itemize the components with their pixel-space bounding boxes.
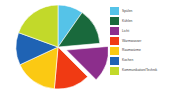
legend-swatch-icon-kuehlen xyxy=(110,17,119,25)
legend-label-spuelen: Spülen xyxy=(122,10,132,13)
legend-label-warmwasser: Warmwasser xyxy=(122,40,141,43)
legend-item-licht[interactable]: Licht xyxy=(110,27,177,35)
chart-legend: Spülen Kühlen Licht Warmwasser Raumwärme… xyxy=(110,7,177,75)
legend-label-raumwaerme: Raumwärme xyxy=(122,49,141,52)
legend-swatch-icon-raumwaerme xyxy=(110,47,119,55)
legend-item-kochen[interactable]: Kochen xyxy=(110,57,177,65)
legend-label-kochen: Kochen xyxy=(122,59,133,62)
legend-label-licht: Licht xyxy=(122,30,129,33)
pie-slice-group xyxy=(16,5,108,89)
pie-chart-svg xyxy=(8,2,108,92)
legend-swatch-icon-warmwasser xyxy=(110,37,119,45)
legend-item-kommunikation-technik[interactable]: Kommunikation/Technik xyxy=(110,67,177,75)
pie-chart-figure: Spülen Kühlen Licht Warmwasser Raumwärme… xyxy=(0,0,177,93)
legend-label-kommunikation-technik: Kommunikation/Technik xyxy=(122,69,157,72)
legend-item-kuehlen[interactable]: Kühlen xyxy=(110,17,177,25)
legend-item-raumwaerme[interactable]: Raumwärme xyxy=(110,47,177,55)
legend-item-warmwasser[interactable]: Warmwasser xyxy=(110,37,177,45)
legend-swatch-icon-kochen xyxy=(110,57,119,65)
legend-label-kuehlen: Kühlen xyxy=(122,20,132,23)
legend-swatch-icon-kommunikation-technik xyxy=(110,67,119,75)
legend-item-spuelen[interactable]: Spülen xyxy=(110,7,177,15)
legend-swatch-icon-licht xyxy=(110,27,119,35)
pie-chart-plot-area xyxy=(8,2,108,92)
legend-swatch-icon-spuelen xyxy=(110,7,119,15)
